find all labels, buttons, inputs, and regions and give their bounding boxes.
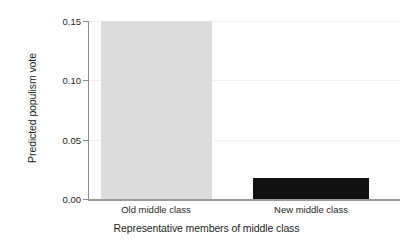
y-axis-line [88, 21, 89, 199]
tick-mark-icon [83, 199, 88, 200]
y-tick-label: 0.15 [63, 16, 82, 27]
x-category-label-new: New middle class [274, 204, 348, 215]
x-category-label-old: Old middle class [121, 204, 191, 215]
plot-area: 0.15 0.10 0.05 0.00 Old middle class New… [88, 14, 400, 199]
bar-new-middle-class[interactable] [253, 178, 369, 199]
tick-mark-icon [83, 80, 88, 81]
tick-mark-icon [83, 140, 88, 141]
tick-mark-icon [83, 21, 88, 22]
y-tick-label: 0.10 [63, 75, 82, 86]
y-tick-label: 0.05 [63, 135, 82, 146]
x-axis-title: Representative members of middle class [0, 222, 413, 234]
bar-chart: Predicted populism vote 0.15 0.10 0.05 0… [0, 0, 413, 242]
y-axis-title: Predicted populism vote [26, 13, 38, 203]
y-tick-label: 0.00 [63, 194, 82, 205]
x-axis-line [88, 199, 400, 201]
bar-old-middle-class[interactable] [101, 21, 212, 199]
